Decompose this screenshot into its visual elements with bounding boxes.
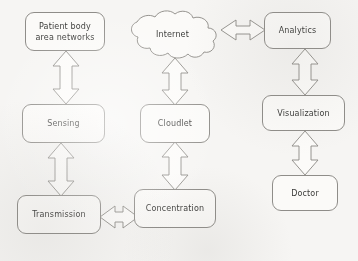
node-cloudlet[interactable]: Cloudlet [140,104,210,143]
connector-internet-to-analytics [221,20,265,40]
diagram-canvas: Patient body area networks Internet Anal… [0,0,358,261]
node-label: Analytics [279,25,317,36]
node-transmission[interactable]: Transmission [17,195,101,234]
node-internet[interactable]: Internet [124,8,221,62]
node-label: Patient body area networks [36,21,95,43]
node-doctor[interactable]: Doctor [272,175,338,211]
node-visualization[interactable]: Visualization [262,95,345,131]
node-label: Cloudlet [158,118,192,129]
connector-patient-to-sensing [53,51,79,104]
connector-cloudlet-to-concentration [162,142,188,190]
node-label: Internet [156,30,189,41]
node-concentration[interactable]: Concentration [134,189,216,228]
node-analytics[interactable]: Analytics [264,12,331,49]
connector-analytics-to-visualization [292,49,318,95]
node-patient-body-area-networks[interactable]: Patient body area networks [25,12,105,51]
node-label: Visualization [277,108,329,119]
node-label: Transmission [32,209,85,220]
node-sensing[interactable]: Sensing [22,104,105,143]
node-label: Doctor [291,188,319,199]
connector-visualization-to-doctor [292,131,318,175]
connector-transmission-to-concentration [100,206,138,228]
node-label: Concentration [146,203,205,214]
node-label: Sensing [47,118,80,129]
connector-sensing-to-transmission [48,143,74,196]
connector-internet-to-cloudlet [162,58,188,105]
